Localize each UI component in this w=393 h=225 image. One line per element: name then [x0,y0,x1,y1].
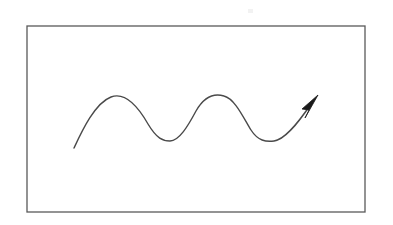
scan-speck-artifact [248,9,253,13]
wave-arrow-diagram [0,0,393,225]
diagram-canvas: Wave Arrow Diagram [0,0,393,225]
diagram-background [0,0,393,225]
